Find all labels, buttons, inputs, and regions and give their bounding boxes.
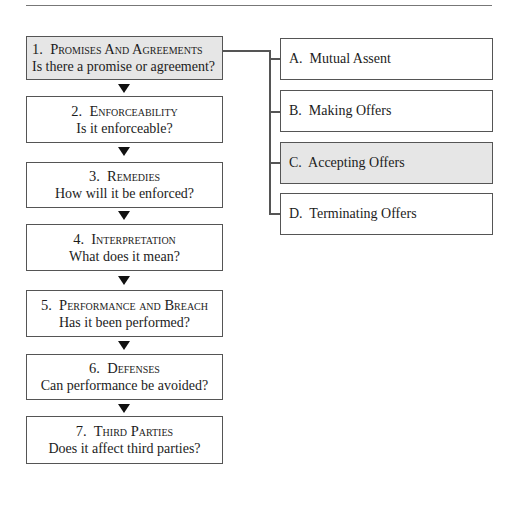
subtopic-label: B. Making Offers <box>289 103 391 119</box>
connector-tick-c <box>269 162 280 164</box>
step-6-defenses: 6. Defenses Can performance be avoided? <box>26 354 223 400</box>
subtopic-accepting-offers: C. Accepting Offers <box>280 142 493 184</box>
down-arrow-icon <box>118 341 130 350</box>
down-arrow-icon <box>118 84 130 93</box>
header-rule <box>26 5 492 6</box>
subtopic-label: C. Accepting Offers <box>289 155 405 171</box>
step-question: Is it enforceable? <box>27 120 222 138</box>
subtopic-terminating-offers: D. Terminating Offers <box>280 193 493 235</box>
down-arrow-icon <box>118 404 130 413</box>
subtopic-making-offers: B. Making Offers <box>280 90 493 132</box>
down-arrow-icon <box>118 276 130 285</box>
down-arrow-icon <box>118 211 130 220</box>
down-arrow-icon <box>118 147 130 156</box>
step-title: 5. Performance and Breach <box>27 296 222 314</box>
step-question: Does it affect third parties? <box>27 440 222 458</box>
connector-tick-d <box>269 213 280 215</box>
step-4-interpretation: 4. Interpretation What does it mean? <box>26 224 223 271</box>
step-title: 2. Enforceability <box>27 102 222 120</box>
step-5-performance-and-breach: 5. Performance and Breach Has it been pe… <box>26 290 223 337</box>
connector-tick-a <box>269 58 280 60</box>
subtopic-mutual-assent: A. Mutual Assent <box>280 38 493 80</box>
step-title: 1. Promises And Agreements <box>32 40 222 58</box>
step-question: Can performance be avoided? <box>27 377 222 395</box>
step-question: Is there a promise or agreement? <box>32 58 222 76</box>
step-question: What does it mean? <box>27 248 222 266</box>
subtopic-label: A. Mutual Assent <box>289 51 391 67</box>
step-title: 6. Defenses <box>27 359 222 377</box>
step-3-remedies: 3. Remedies How will it be enforced? <box>26 162 223 208</box>
step-7-third-parties: 7. Third Parties Does it affect third pa… <box>26 416 223 464</box>
connector-tick-b <box>269 111 280 113</box>
subtopic-label: D. Terminating Offers <box>289 206 417 222</box>
step-title: 7. Third Parties <box>27 422 222 440</box>
step-question: Has it been performed? <box>27 314 222 332</box>
step-question: How will it be enforced? <box>27 185 222 203</box>
step-2-enforceability: 2. Enforceability Is it enforceable? <box>26 96 223 143</box>
step-1-promises-and-agreements: 1. Promises And Agreements Is there a pr… <box>26 36 223 80</box>
connector-horizontal <box>223 50 270 52</box>
step-title: 4. Interpretation <box>27 230 222 248</box>
connector-vertical <box>269 50 271 214</box>
step-title: 3. Remedies <box>27 167 222 185</box>
